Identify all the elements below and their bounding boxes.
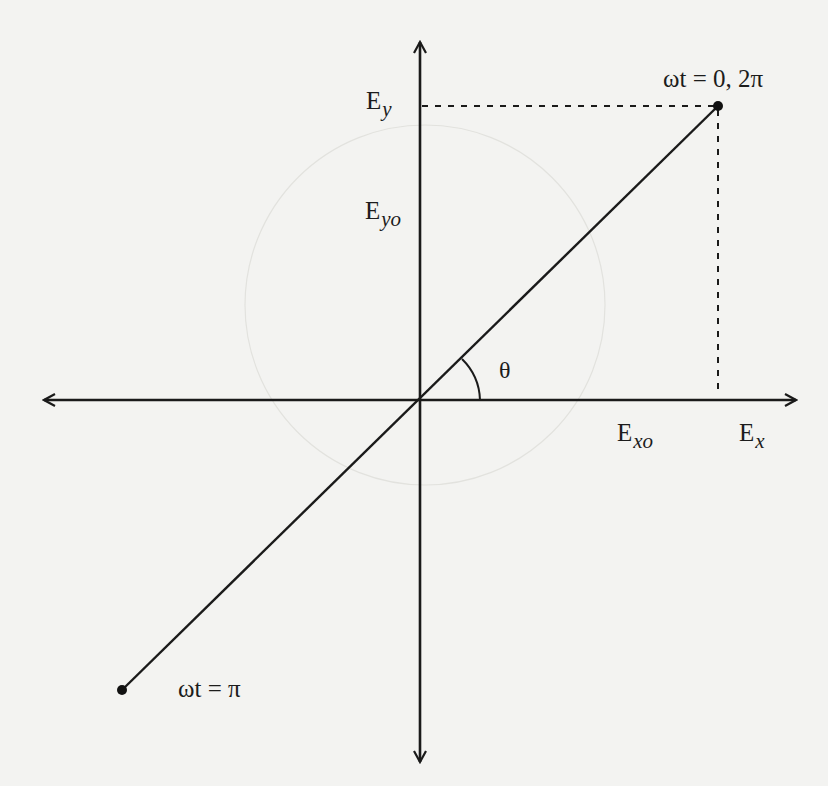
y-axis-label-sub: y xyxy=(382,97,391,121)
bleed-through-circle xyxy=(245,125,605,485)
x-amplitude-label-main: E xyxy=(617,419,632,446)
y-axis-label-main: E xyxy=(366,87,381,114)
point-wt-0 xyxy=(713,101,723,111)
x-axis-label-main: E xyxy=(739,419,754,446)
x-axis-label: Ex xyxy=(739,420,765,452)
point-wt-pi xyxy=(117,685,127,695)
y-axis-label: Ey xyxy=(366,88,392,120)
polarization-diagram xyxy=(0,0,828,786)
x-amplitude-label-sub: xo xyxy=(633,429,653,453)
point-wt-pi-label: ωt = π xyxy=(178,676,241,701)
y-amplitude-label-sub: yo xyxy=(381,207,401,231)
y-amplitude-label-main: E xyxy=(365,197,380,224)
point-wt-0-label: ωt = 0, 2π xyxy=(663,66,763,91)
theta-angle-arc xyxy=(462,359,480,400)
theta-label: θ xyxy=(499,358,511,382)
y-amplitude-label: Eyo xyxy=(365,198,401,230)
x-amplitude-label: Exo xyxy=(617,420,653,452)
x-axis-label-sub: x xyxy=(755,429,764,453)
